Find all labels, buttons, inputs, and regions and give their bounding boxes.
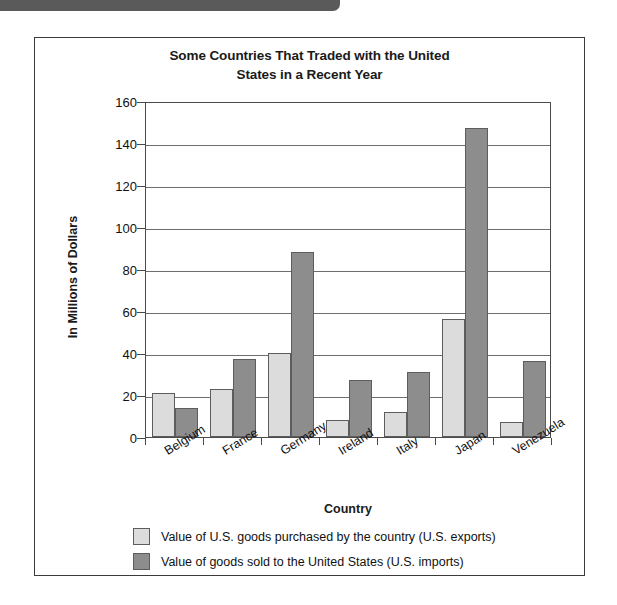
bar-group [436, 103, 494, 437]
legend-label-exports: Value of U.S. goods purchased by the cou… [161, 530, 496, 544]
bar-imports [465, 128, 488, 437]
x-axis-labels: BelgiumFranceGermanyIrelandItalyJapanVen… [145, 440, 551, 500]
bar-exports [326, 420, 349, 437]
y-tick-label: 80 [91, 263, 137, 278]
y-tick-label: 60 [91, 305, 137, 320]
y-tick-label: 0 [91, 431, 137, 446]
y-tick-label: 100 [91, 221, 137, 236]
legend-swatch-exports [133, 528, 150, 545]
y-tick-mark [137, 354, 145, 355]
chart-legend: Value of U.S. goods purchased by the cou… [133, 524, 553, 574]
bar-exports [500, 422, 523, 437]
bar-exports [210, 389, 233, 437]
y-axis-title: In Millions of Dollars [66, 177, 80, 377]
bar-imports [291, 252, 314, 437]
bar-exports [384, 412, 407, 437]
x-axis-title: Country [145, 502, 551, 516]
y-tick-mark [137, 228, 145, 229]
bar-exports [268, 353, 291, 437]
y-tick-mark [137, 102, 145, 103]
legend-item-exports: Value of U.S. goods purchased by the cou… [133, 524, 553, 549]
decorative-top-bar [0, 0, 340, 11]
bar-group [378, 103, 436, 437]
y-tick-label: 140 [91, 137, 137, 152]
chart-title: Some Countries That Traded with the Unit… [35, 46, 584, 84]
bar-exports [152, 393, 175, 437]
bar-group [320, 103, 378, 437]
bar-group [494, 103, 552, 437]
y-tick-label: 120 [91, 179, 137, 194]
legend-label-imports: Value of goods sold to the United States… [161, 555, 464, 569]
x-tick-mark [551, 438, 552, 445]
y-tick-mark [137, 312, 145, 313]
bar-series-container [146, 103, 550, 437]
chart-title-line-2: States in a Recent Year [35, 65, 584, 84]
bar-group [146, 103, 204, 437]
y-tick-mark [137, 144, 145, 145]
y-tick-label: 20 [91, 389, 137, 404]
y-tick-label: 40 [91, 347, 137, 362]
chart-card: Some Countries That Traded with the Unit… [34, 37, 585, 576]
plot-area [145, 102, 551, 438]
bar-exports [442, 319, 465, 437]
bar-group [204, 103, 262, 437]
y-tick-mark [137, 396, 145, 397]
legend-swatch-imports [133, 553, 150, 570]
y-axis-ticks: 020406080100120140160 [85, 102, 137, 438]
y-tick-label: 160 [91, 95, 137, 110]
bar-imports [407, 372, 430, 437]
chart-title-line-1: Some Countries That Traded with the Unit… [35, 46, 584, 65]
y-tick-mark [137, 186, 145, 187]
y-tick-mark [137, 438, 145, 439]
bar-group [262, 103, 320, 437]
legend-item-imports: Value of goods sold to the United States… [133, 549, 553, 574]
y-tick-mark [137, 270, 145, 271]
